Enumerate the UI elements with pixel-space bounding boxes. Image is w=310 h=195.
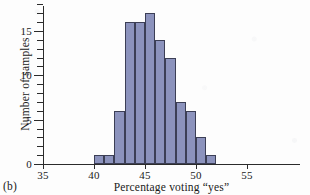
y-axis-minor-tick	[37, 40, 43, 41]
y-axis-minor-tick	[37, 58, 43, 59]
histogram-bar	[145, 13, 155, 164]
y-axis-minor-tick	[37, 49, 43, 50]
y-axis-major-tick	[34, 75, 43, 76]
y-axis-tick-label: 15	[21, 26, 32, 37]
y-axis-line	[43, 6, 44, 165]
y-axis-minor-tick	[37, 93, 43, 94]
y-axis-minor-tick	[37, 84, 43, 85]
y-axis-minor-tick	[37, 129, 43, 130]
y-axis-major-tick	[34, 120, 43, 121]
x-axis-tick-label: 40	[80, 170, 108, 181]
histogram-bar	[135, 22, 145, 164]
y-axis-minor-tick	[37, 4, 43, 5]
x-axis-tick-label: 45	[131, 170, 159, 181]
y-axis-tick-label: 5	[26, 115, 32, 126]
y-axis-major-tick	[34, 164, 43, 165]
histogram-bar	[165, 58, 175, 164]
x-axis-tick-label: 35	[29, 170, 57, 181]
y-axis-minor-tick	[37, 13, 43, 14]
histogram-bar	[176, 102, 186, 164]
x-axis-title: Percentage voting “yes”	[43, 181, 300, 193]
y-axis-minor-tick	[37, 155, 43, 156]
histogram-bar	[196, 137, 206, 164]
y-axis-tick-label: 0	[26, 159, 32, 170]
x-axis-line	[43, 164, 300, 165]
histogram-bar	[186, 111, 196, 164]
x-axis-tick-label: 50	[182, 170, 210, 181]
histogram-bar	[94, 155, 104, 164]
y-axis-minor-tick	[37, 102, 43, 103]
panel-label: (b)	[3, 180, 17, 192]
y-axis-minor-tick	[37, 111, 43, 112]
x-axis-tick-label: 55	[233, 170, 261, 181]
y-axis-tick-label: 10	[21, 70, 32, 81]
histogram-bar	[104, 155, 114, 164]
histogram-bar	[125, 22, 135, 164]
histogram-figure: Number of samples Percentage voting “yes…	[0, 0, 310, 195]
histogram-bar	[155, 40, 165, 164]
y-axis-minor-tick	[37, 137, 43, 138]
y-axis-minor-tick	[37, 66, 43, 67]
histogram-bar	[206, 155, 216, 164]
y-axis-minor-tick	[37, 146, 43, 147]
y-axis-major-tick	[34, 31, 43, 32]
plot-area	[0, 0, 310, 195]
y-axis-minor-tick	[37, 22, 43, 23]
histogram-bar	[114, 111, 124, 164]
